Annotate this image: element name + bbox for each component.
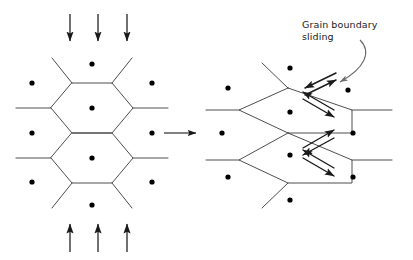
marker-dot xyxy=(89,105,94,110)
marker-dot xyxy=(287,152,292,157)
marker-dot xyxy=(149,179,154,184)
marker-dot xyxy=(29,130,34,135)
marker-dot xyxy=(149,130,154,135)
stub-tr xyxy=(112,58,132,83)
grain-network-after xyxy=(206,63,392,208)
stub-tl-after xyxy=(262,63,288,88)
marker-dot xyxy=(345,87,350,92)
sliding-arrow xyxy=(305,73,336,88)
marker-dot xyxy=(287,109,292,114)
compression-arrows-bottom xyxy=(70,224,127,252)
stub-tl xyxy=(52,58,72,83)
grain-network-before xyxy=(16,58,168,208)
stub-bl2 xyxy=(52,183,72,208)
stub-br2 xyxy=(112,183,132,208)
stub-bl2-after xyxy=(262,183,288,208)
sliding-arrows xyxy=(303,73,336,176)
marker-dot xyxy=(225,85,230,90)
grain-upper-after xyxy=(239,88,352,133)
marker-dot xyxy=(89,61,94,66)
marker-dot xyxy=(89,155,94,160)
grain-boundary-sliding-label-line1: Grain boundary xyxy=(302,19,377,31)
marker-dot xyxy=(287,65,292,70)
before-panel xyxy=(16,14,168,252)
grain-lower-after xyxy=(239,133,352,183)
marker-dots-after xyxy=(219,65,355,202)
marker-dot xyxy=(219,130,224,135)
after-panel xyxy=(206,40,392,208)
sliding-arrow xyxy=(303,150,334,168)
figure-canvas: Grain boundary sliding xyxy=(0,0,413,260)
marker-dot xyxy=(89,202,94,207)
marker-dot xyxy=(29,179,34,184)
label-leader-arrow xyxy=(340,40,366,82)
sliding-arrow xyxy=(303,158,334,176)
compression-arrows-top xyxy=(70,14,127,41)
grain-boundary-sliding-label-line2: sliding xyxy=(302,31,377,43)
marker-dot xyxy=(29,80,34,85)
sliding-arrow xyxy=(305,80,336,95)
marker-dot xyxy=(225,174,230,179)
grain-boundary-sliding-label: Grain boundary sliding xyxy=(302,19,377,42)
marker-dot xyxy=(350,174,355,179)
marker-dot xyxy=(149,80,154,85)
marker-dot xyxy=(350,130,355,135)
marker-dot xyxy=(287,197,292,202)
